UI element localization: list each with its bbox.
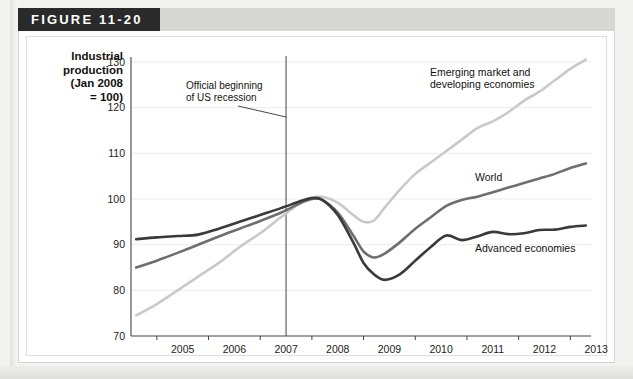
- figure-header-dark-band: FIGURE 11-20: [18, 8, 160, 31]
- figure-header-light-band: [160, 8, 615, 31]
- figure-page: FIGURE 11-20 Industrial production (Jan …: [0, 0, 633, 379]
- y-axis-title-line-2: production: [22, 64, 123, 78]
- y-axis-title-line-4: = 100): [22, 91, 123, 105]
- figure-header: FIGURE 11-20: [18, 8, 615, 31]
- page-edge-shadow: [10, 0, 18, 379]
- page-bottom-shadow: [0, 366, 633, 379]
- y-axis-title: Industrial production (Jan 2008 = 100): [22, 50, 123, 104]
- y-axis-title-line-3: (Jan 2008: [22, 77, 123, 91]
- y-axis-title-line-1: Industrial: [22, 50, 123, 64]
- figure-number-label: FIGURE 11-20: [31, 12, 143, 27]
